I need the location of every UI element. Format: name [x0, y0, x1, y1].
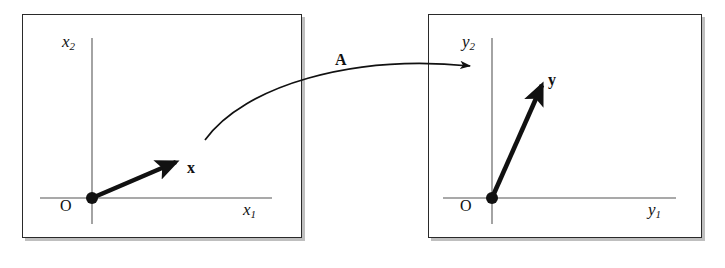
diagram-vector-layer [0, 0, 725, 268]
domain-x-axis-label: x1 [243, 201, 256, 220]
vector-x-label: x [187, 160, 195, 176]
codomain-axes [443, 38, 676, 224]
figure-canvas: x2 x1 O x y2 y1 O y A [0, 0, 725, 268]
linear-map-arrow [205, 63, 470, 140]
vector-y-arrow [492, 85, 542, 198]
codomain-y-axis-label: y2 [462, 33, 475, 52]
domain-y-axis-label: x2 [62, 33, 75, 52]
vector-y-label: y [548, 72, 556, 88]
matrix-a-label: A [335, 52, 347, 68]
domain-axes [40, 38, 272, 224]
vector-x-arrow [92, 162, 176, 198]
codomain-origin-label: O [460, 198, 472, 214]
domain-origin-label: O [60, 198, 72, 214]
codomain-x-axis-label: y1 [648, 201, 661, 220]
